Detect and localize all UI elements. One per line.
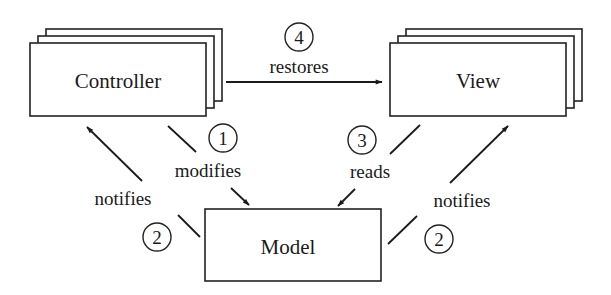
- controller-node: Controller: [30, 29, 222, 116]
- edge-modifies: 1 modifies: [168, 124, 249, 205]
- reads-arrow: [338, 189, 355, 206]
- modifies-arrow: [231, 188, 249, 205]
- reads-line-upper: [390, 125, 420, 154]
- view-node: View: [390, 29, 582, 116]
- edge-notifies-controller: 2 notifies: [87, 127, 200, 251]
- controller-label: Controller: [75, 69, 161, 93]
- mvc-diagram: Controller View Model 4 restores 1 modif…: [0, 0, 611, 295]
- edge-restores: 4 restores: [226, 23, 382, 82]
- model-node: Model: [205, 209, 381, 281]
- step-2-number-left: 2: [152, 227, 162, 248]
- step-4-number: 4: [294, 27, 304, 48]
- edge-notifies-view: 2 notifies: [388, 126, 508, 253]
- step-3-number: 3: [357, 130, 367, 151]
- restores-label: restores: [269, 56, 328, 77]
- notifies-controller-line-lower: [178, 215, 200, 237]
- step-1-number: 1: [218, 128, 228, 149]
- edge-reads: 3 reads: [338, 125, 420, 206]
- notifies-view-label: notifies: [434, 190, 491, 211]
- notifies-controller-label: notifies: [95, 188, 152, 209]
- view-label: View: [456, 69, 501, 93]
- model-label: Model: [261, 235, 316, 259]
- modifies-line-upper: [168, 126, 196, 152]
- notifies-view-line-lower: [388, 216, 417, 244]
- notifies-view-arrow: [450, 126, 508, 183]
- modifies-label: modifies: [175, 160, 242, 181]
- reads-label: reads: [350, 161, 390, 182]
- notifies-controller-arrow: [87, 127, 142, 181]
- step-2-number-right: 2: [434, 229, 444, 250]
